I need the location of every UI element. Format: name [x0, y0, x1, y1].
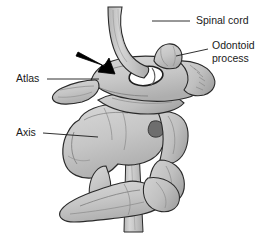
label-spinal-cord: Spinal cord [196, 14, 249, 26]
anatomy-figure: Spinal cord Odontoid process Atlas Axis [0, 0, 271, 241]
label-axis: Axis [16, 126, 36, 138]
label-odontoid-process-line1: Odontoid [212, 39, 255, 51]
label-odontoid-process-line2: process [212, 52, 249, 64]
anatomy-illustration: Spinal cord Odontoid process Atlas Axis [0, 0, 271, 241]
label-atlas: Atlas [16, 72, 39, 84]
